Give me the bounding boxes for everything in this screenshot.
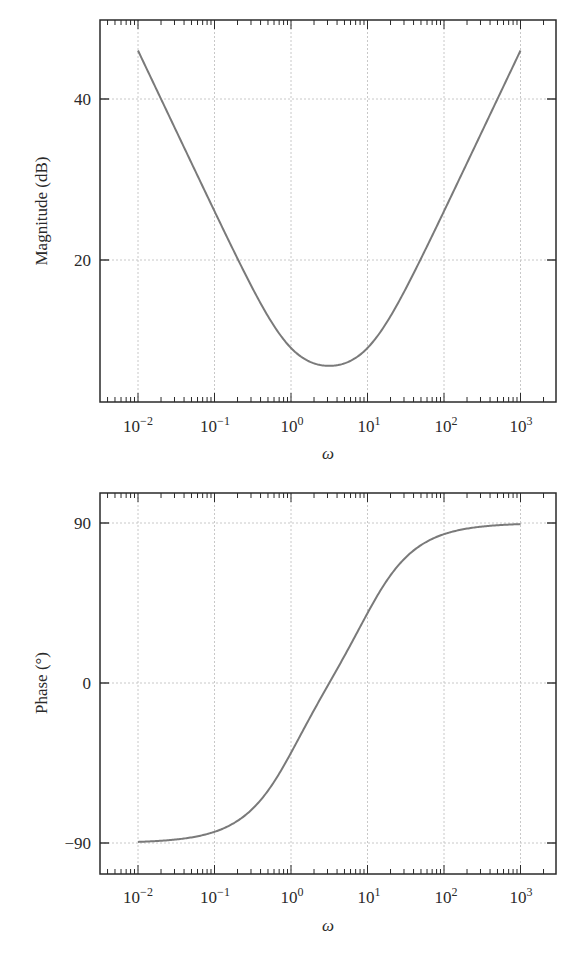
phase-ytick-minus90: −90 [64, 834, 91, 853]
mag-ytick-20: 20 [74, 251, 91, 270]
bode-plot: Magnitude (dB) 40 20 ω Phase (°) 90 0 −9… [0, 0, 581, 954]
mag-xtick-label: 101 [358, 414, 381, 436]
phase-xtick-label: 100 [281, 885, 304, 907]
phase-xtick-label: 102 [435, 885, 458, 907]
mag-xtick-label: 102 [435, 414, 458, 436]
magnitude-x-label: ω [322, 444, 334, 463]
phase-xtick-label: 10−1 [200, 885, 230, 907]
mag-xtick-label: 10−2 [123, 414, 153, 436]
phase-x-tick-labels: 10−2 10−1 100 101 102 103 [123, 885, 532, 907]
phase-xtick-label: 103 [510, 885, 533, 907]
phase-y-label: Phase (°) [32, 652, 51, 714]
mag-ytick-40: 40 [74, 90, 91, 109]
mag-xtick-label: 100 [281, 414, 304, 436]
magnitude-y-label: Magnitude (dB) [32, 156, 51, 265]
phase-ytick-0: 0 [83, 674, 92, 693]
axes-frame [100, 20, 556, 402]
phase-x-label: ω [322, 916, 334, 935]
phase-xtick-label: 10−2 [123, 885, 153, 907]
phase-xtick-label: 101 [358, 885, 381, 907]
data-curve [138, 524, 521, 842]
data-curve [138, 51, 521, 366]
phase-plot [100, 493, 556, 874]
magnitude-plot [100, 20, 556, 402]
phase-ytick-90: 90 [74, 514, 91, 533]
mag-xtick-label: 103 [510, 414, 533, 436]
mag-x-tick-labels: 10−2 10−1 100 101 102 103 [123, 414, 532, 436]
mag-xtick-label: 10−1 [200, 414, 230, 436]
